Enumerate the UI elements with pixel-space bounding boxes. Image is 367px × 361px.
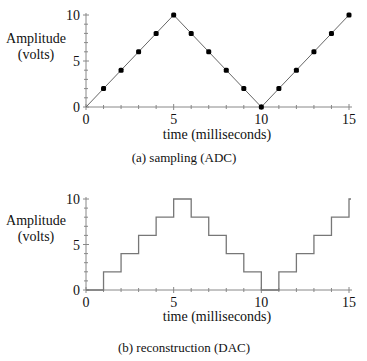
y-tick-label: 0 [73,283,80,298]
axes: 0510150510 [66,192,356,310]
sample-point [276,86,281,91]
x-tick-label: 5 [170,112,177,127]
y-tick-label: 10 [66,192,80,207]
x-tick-label: 0 [83,112,90,127]
sample-point [294,68,299,73]
figure: Amplitude (volts) 0510150510 time (milli… [0,0,367,361]
sample-point [224,68,229,73]
sampling-chart: Amplitude (volts) 0510150510 time (milli… [6,8,356,165]
x-axis-label: time (milliseconds) [163,309,272,325]
sample-point [101,86,106,91]
sample-point [311,49,316,54]
sample-point [329,31,334,36]
y-axis-label-line2: (volts) [18,47,55,63]
y-tick-label: 5 [73,54,80,69]
caption: (b) reconstruction (DAC) [118,340,250,355]
y-tick-label: 0 [73,100,80,115]
sample-point [171,13,176,18]
line-series [86,15,349,107]
sample-point [347,13,352,18]
y-axis-label-line1: Amplitude [6,31,66,46]
x-axis-label: time (milliseconds) [163,127,272,143]
y-axis-label-line2: (volts) [18,229,55,245]
x-tick-label: 10 [254,112,268,127]
step-series [86,199,351,290]
x-tick-label: 15 [342,112,356,127]
y-tick-label: 5 [73,238,80,253]
sample-point [154,31,159,36]
x-tick-label: 10 [254,295,268,310]
sample-point [259,105,264,110]
axes: 0510150510 [66,8,356,127]
reconstruction-chart: Amplitude (volts) 0510150510 time (milli… [6,192,356,355]
sample-point [241,86,246,91]
x-tick-label: 0 [83,295,90,310]
sample-point [136,49,141,54]
x-tick-label: 15 [342,295,356,310]
sample-point [206,49,211,54]
x-tick-label: 5 [170,295,177,310]
caption: (a) sampling (ADC) [132,150,237,165]
y-axis-label-line1: Amplitude [6,213,66,228]
sample-point [189,31,194,36]
sample-point [119,68,124,73]
y-tick-label: 10 [66,8,80,23]
